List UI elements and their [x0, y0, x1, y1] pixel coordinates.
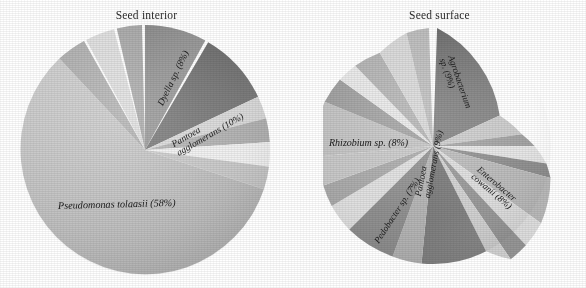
figure-root: Seed interior	[0, 0, 586, 288]
panel-title-seed-interior: Seed interior	[0, 9, 293, 21]
panel-title-seed-surface: Seed surface	[293, 9, 586, 21]
panel-seed-surface: Seed surface	[293, 0, 586, 288]
pie-svg-seed-surface	[323, 24, 573, 274]
pie-svg-seed-interior	[8, 22, 286, 284]
pie-chart-seed-interior	[8, 22, 286, 284]
pie-shading-overlay-left	[20, 25, 270, 275]
panel-seed-interior: Seed interior	[0, 0, 293, 288]
pie-shading-overlay-right	[323, 28, 551, 264]
pie-chart-seed-surface	[323, 24, 573, 274]
